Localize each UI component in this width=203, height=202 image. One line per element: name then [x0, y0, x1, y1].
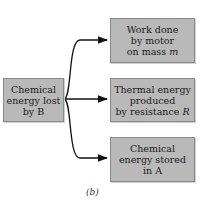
- figure-caption: (b): [0, 187, 185, 197]
- target-line: Thermal energy: [114, 84, 191, 95]
- variable-r: R: [182, 106, 189, 117]
- target-line: on mass: [127, 46, 169, 57]
- source-line: energy lost: [7, 95, 61, 106]
- target-line: produced: [114, 95, 191, 106]
- source-line: Chemical: [7, 84, 61, 95]
- arrow-to-work-done: [64, 40, 107, 99]
- target-box-thermal-energy: Thermal energy produced by resistance R: [110, 78, 195, 122]
- target-line: by resistance: [115, 106, 182, 117]
- target-line: in A: [119, 165, 186, 176]
- variable-m: m: [169, 46, 178, 57]
- target-line: Work done: [127, 24, 179, 35]
- arrow-to-chemical-stored: [64, 99, 107, 158]
- target-box-chemical-energy-stored: Chemical energy stored in A: [110, 137, 195, 182]
- source-box-chemical-energy-lost: Chemical energy lost by B: [3, 78, 64, 122]
- target-line: by motor: [127, 35, 179, 46]
- target-line: energy stored: [119, 154, 186, 165]
- target-box-work-done: Work done by motor on mass m: [110, 18, 195, 63]
- source-line: by B: [7, 106, 61, 117]
- target-line: Chemical: [119, 143, 186, 154]
